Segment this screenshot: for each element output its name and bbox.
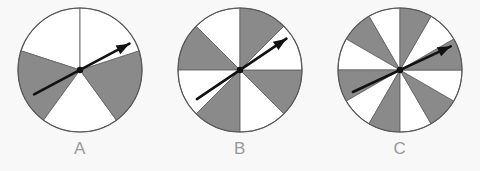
needle-hub (77, 67, 83, 73)
spinner-b-label: B (160, 138, 320, 160)
spinner-c-wheel[interactable] (320, 4, 480, 136)
spinners-figure: ABC (0, 0, 480, 171)
spinner-c[interactable]: C (320, 0, 480, 171)
needle-hub (397, 67, 403, 73)
spinner-a-wheel[interactable] (0, 4, 160, 136)
spinner-c-label: C (320, 138, 480, 160)
spinner-b-wheel[interactable] (160, 4, 320, 136)
spinner-b[interactable]: B (160, 0, 320, 171)
spinner-a[interactable]: A (0, 0, 160, 171)
spinner-a-label: A (0, 138, 160, 160)
needle-hub (237, 67, 243, 73)
